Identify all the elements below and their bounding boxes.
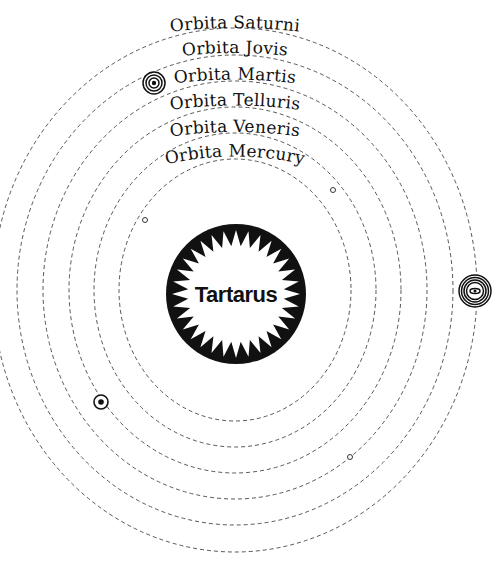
mercury-symbol-icon [143,218,148,223]
label-mercury: Orbita Mercury [163,140,307,168]
mercury-symbol-icon [331,188,336,193]
label-jupiter: Orbita Jovis [181,37,289,60]
orbit-diagram: Tartarus Orbita Saturni Orbita Jovis Orb… [0,0,495,566]
orbit-labels: Orbita Saturni Orbita Jovis Orbita Marti… [163,12,307,168]
jupiter-symbol-icon [143,72,165,94]
saturn-symbol-icon [458,274,492,308]
earth-symbol-icon [94,395,108,409]
venus-symbol-icon [348,455,353,460]
tartarus-label: Tartarus [195,282,278,307]
label-mars: Orbita Martis [173,63,298,87]
label-venus: Orbita Veneris [169,116,302,140]
label-saturn: Orbita Saturni [169,12,302,36]
label-earth: Orbita Telluris [168,89,301,113]
